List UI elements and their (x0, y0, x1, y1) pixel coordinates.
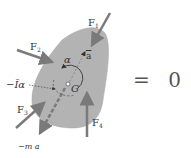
zero-value: 0 (168, 68, 187, 92)
label-inertial-couple: −Īα (6, 80, 25, 90)
label-f1: F1 (88, 18, 99, 29)
label-g: G (71, 84, 79, 94)
label-inertial-force: −m a (18, 143, 40, 151)
label-f2: F2 (30, 42, 41, 53)
label-acceleration: a (86, 52, 91, 61)
equation-rhs: = 0 (133, 68, 187, 92)
center-of-mass-point (66, 82, 70, 86)
label-f4: F4 (92, 118, 103, 129)
label-alpha: α (64, 55, 71, 65)
label-f3: F3 (17, 105, 28, 116)
rigid-body-shape (32, 28, 109, 128)
equals-sign: = (133, 68, 156, 92)
